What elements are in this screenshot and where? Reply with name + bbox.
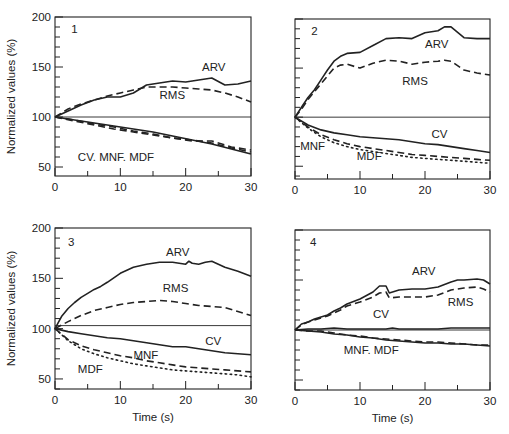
- curve-label: RMS: [448, 296, 474, 308]
- x-tick-label: 10: [354, 395, 367, 407]
- y-tick-label: 200: [32, 11, 51, 23]
- figure-canvas: 010203050100150200Normalized values (%)1…: [0, 0, 509, 434]
- curve-label: CV: [432, 128, 448, 140]
- x-tick-label: 20: [179, 181, 192, 193]
- x-tick-label: 30: [245, 181, 258, 193]
- y-tick-label: 50: [38, 161, 51, 173]
- curve-label: MDF: [357, 150, 382, 162]
- chart-panel-1: 010203050100150200Normalized values (%)1…: [5, 11, 257, 193]
- series-arv: [295, 27, 490, 117]
- x-axis-label: Time (s): [132, 411, 174, 423]
- y-tick-label: 200: [32, 222, 51, 234]
- x-axis-label: Time (s): [372, 412, 414, 424]
- curve-label: RMS: [160, 89, 186, 101]
- x-tick-label: 30: [484, 395, 497, 407]
- y-tick-label: 50: [38, 373, 51, 385]
- y-tick-label: 150: [32, 272, 51, 284]
- y-axis-label: Normalized values (%): [5, 250, 17, 366]
- chart-panel-2: 01020302ARVRMSCVMNFMDF: [292, 19, 497, 196]
- plot-frame: [295, 230, 490, 390]
- x-tick-label: 10: [114, 181, 127, 193]
- series-rms: [295, 60, 490, 117]
- curve-label: RMS: [163, 282, 189, 294]
- curve-label: CV: [205, 335, 221, 347]
- curve-label: RMS: [402, 75, 428, 87]
- x-tick-label: 10: [114, 394, 127, 406]
- chart-panel-4: 0102030Time (s)4ARVRMSCVMNF. MDF: [292, 230, 497, 424]
- x-tick-label: 30: [245, 394, 258, 406]
- curve-label: MNF: [133, 349, 158, 361]
- x-tick-label: 20: [179, 394, 192, 406]
- curve-label: CV: [373, 308, 389, 320]
- y-tick-label: 100: [32, 323, 51, 335]
- curve-label: ARV: [202, 61, 226, 73]
- y-tick-label: 150: [32, 61, 51, 73]
- series-arv: [55, 261, 251, 328]
- series-rms: [55, 87, 251, 117]
- figure: 010203050100150200Normalized values (%)1…: [0, 0, 509, 434]
- curve-label: ARV: [412, 265, 436, 277]
- panel-number-label: 1: [71, 23, 77, 35]
- panel-number-label: 2: [311, 25, 317, 37]
- series-rms: [55, 300, 251, 328]
- series-arv: [55, 78, 251, 117]
- chart-panel-3: 010203050100150200Normalized values (%)T…: [5, 222, 257, 423]
- x-tick-label: 20: [419, 184, 432, 196]
- curve-label: ARV: [425, 38, 449, 50]
- curve-label: MNF. MDF: [344, 344, 399, 356]
- x-tick-label: 10: [354, 184, 367, 196]
- series-rms: [295, 287, 490, 330]
- curve-label: MNF: [300, 140, 325, 152]
- x-tick-label: 0: [52, 394, 58, 406]
- panel-number-label: 3: [68, 236, 74, 248]
- curve-label: CV. MNF. MDF: [78, 151, 154, 163]
- panel-number-label: 4: [310, 236, 317, 248]
- curve-label: MDF: [78, 363, 103, 375]
- x-tick-label: 0: [292, 395, 298, 407]
- y-axis-label: Normalized values (%): [5, 38, 17, 154]
- x-tick-label: 0: [292, 184, 298, 196]
- y-tick-label: 100: [32, 111, 51, 123]
- curve-label: ARV: [166, 246, 190, 258]
- x-tick-label: 20: [419, 395, 432, 407]
- x-tick-label: 0: [52, 181, 58, 193]
- x-tick-label: 30: [484, 184, 497, 196]
